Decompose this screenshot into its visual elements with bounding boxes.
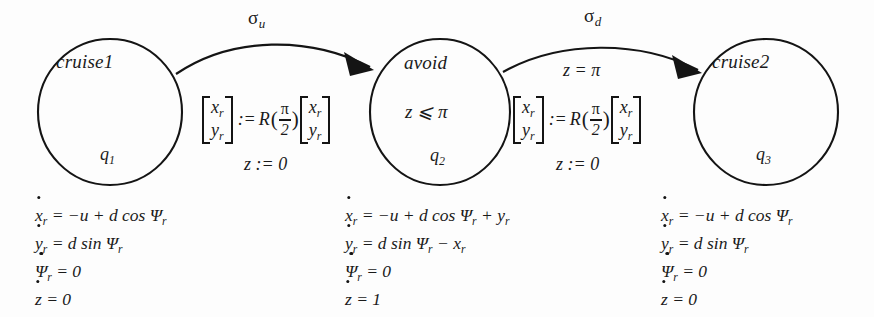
state-id-sub-q3: 3	[765, 153, 771, 167]
reset-angle-denominator-2: 2	[590, 122, 602, 138]
reset-rhs-top-sub-1: r	[317, 106, 322, 120]
variable-name: y	[35, 233, 43, 253]
reset-lhs-bot-var-2: y	[522, 120, 530, 140]
variable-name: y	[345, 233, 353, 253]
equation-rhs-subscript: r	[788, 215, 793, 227]
equation-rhs-tail-subscript: r	[461, 243, 466, 255]
variable-name: z	[661, 289, 668, 309]
reset-rhs-vector-2: xr yr	[611, 96, 642, 144]
transition-edge-avoid-to-cruise2[interactable]	[503, 48, 698, 72]
reset-assign-operator-2: :=	[549, 109, 567, 130]
reset-rhs-top-var-2: x	[620, 97, 628, 117]
reset-angle-fraction-2: π 2	[590, 101, 602, 138]
reset-rhs-top-sub-2: r	[628, 106, 633, 120]
reset-paren-open-1: (	[271, 107, 278, 132]
equation-rhs: = −u + d cos Ψ	[47, 205, 162, 225]
transition-reset-map-2: xr yr := R ( π 2 ) xr yr	[512, 96, 642, 144]
dynamics-equation: Ψr = 0	[661, 257, 793, 285]
reset-paren-open-2: (	[582, 107, 589, 132]
reset-rotation-function-2: R	[570, 109, 581, 130]
reset-lhs-bot-2: yr	[522, 120, 535, 143]
state-id-sub-q2: 2	[439, 154, 445, 168]
transition-event-label-sigma-d: σd	[584, 6, 601, 28]
variable-name: Ψ	[661, 261, 673, 281]
reset-angle-numerator-2: π	[590, 101, 602, 117]
state-id-label-q3: q3	[756, 145, 771, 167]
dotted-variable: z	[345, 285, 352, 312]
equation-rhs: = −u + d cos Ψ	[673, 205, 788, 225]
state-id-sub-q1: 1	[109, 153, 115, 167]
state-id-letter-q3: q	[756, 144, 765, 164]
reset-lhs-vector-2: xr yr	[513, 96, 544, 144]
equation-rhs: = 0	[362, 261, 391, 281]
reset-rhs-bot-2: yr	[620, 120, 633, 143]
state-label-cruise1: cruise1	[56, 52, 113, 71]
reset-rhs-bot-sub-1: r	[317, 129, 322, 143]
transition-guard-label-2: z = π	[563, 61, 600, 79]
equation-rhs: = 0	[42, 289, 71, 309]
equation-rhs: = −u + d cos Ψ	[357, 205, 472, 225]
reset-rotation-function-1: R	[259, 109, 270, 130]
transition-event-label-sigma-u: σu	[248, 8, 265, 30]
variable-name: Ψ	[35, 261, 47, 281]
reset-lhs-bot-1: yr	[211, 120, 224, 143]
event-subscript-u: u	[259, 16, 266, 31]
dynamics-equation: z = 1	[345, 285, 509, 312]
state-id-label-q1: q1	[100, 145, 115, 167]
event-subscript-d: d	[595, 14, 602, 29]
dynamics-equation: yr = d sin Ψr	[661, 229, 793, 257]
dynamics-equation: z = 0	[35, 285, 167, 312]
dynamics-equation: Ψr = 0	[345, 257, 509, 285]
dynamics-equation: yr = d sin Ψr	[35, 229, 167, 257]
equation-rhs: = d sin Ψ	[673, 233, 744, 253]
reset-lhs-top-sub-2: r	[530, 106, 535, 120]
reset-lhs-vector-1: xr yr	[202, 96, 233, 144]
state-label-cruise2: cruise2	[712, 52, 769, 71]
reset-rhs-vector-1: xr yr	[300, 96, 331, 144]
variable-name: z	[35, 289, 42, 309]
reset-rhs-bot-1: yr	[309, 120, 322, 143]
dynamics-block-avoid: xr = −u + d cos Ψr + yryr = d sin Ψr − x…	[345, 201, 509, 311]
transition-reset-map-1: xr yr := R ( π 2 ) xr yr	[201, 96, 331, 144]
variable-name: z	[345, 289, 352, 309]
dynamics-equation: Ψr = 0	[35, 257, 167, 285]
reset-angle-denominator-1: 2	[279, 122, 291, 138]
reset-rhs-top-1: xr	[309, 97, 322, 120]
reset-lhs-top-var-2: x	[522, 97, 530, 117]
reset-lhs-top-var-1: x	[211, 97, 219, 117]
state-invariant-avoid: z ⩽ π	[405, 102, 447, 121]
dynamics-equation: xr = −u + d cos Ψr	[661, 201, 793, 229]
variable-name: x	[661, 205, 669, 225]
dynamics-block-cruise2: xr = −u + d cos Ψryr = d sin ΨrΨr = 0z =…	[661, 201, 793, 311]
reset-paren-close-1: )	[292, 107, 299, 132]
reset-rhs-top-2: xr	[620, 97, 633, 120]
reset-angle-numerator-1: π	[279, 101, 291, 117]
variable-name: x	[35, 205, 43, 225]
dynamics-equation: xr = −u + d cos Ψr	[35, 201, 167, 229]
equation-rhs: = d sin Ψ	[357, 233, 428, 253]
dotted-variable: z	[661, 285, 668, 312]
reset-rhs-bot-var-1: y	[309, 120, 317, 140]
transition-edge-cruise1-to-avoid[interactable]	[176, 45, 370, 74]
reset-lhs-bot-var-1: y	[211, 120, 219, 140]
equation-rhs-tail-subscript: r	[505, 215, 510, 227]
state-id-letter-q1: q	[100, 144, 109, 164]
reset-lhs-bot-sub-2: r	[530, 129, 535, 143]
equation-rhs-tail: − x	[433, 233, 461, 253]
equation-rhs: = 0	[668, 289, 697, 309]
transition-reset-clock-1: z := 0	[244, 155, 287, 173]
reset-rhs-bot-sub-2: r	[628, 129, 633, 143]
reset-angle-fraction-1: π 2	[279, 101, 291, 138]
equation-rhs: = 0	[52, 261, 81, 281]
state-id-label-q2: q2	[430, 146, 445, 168]
reset-rhs-bot-var-2: y	[620, 120, 628, 140]
reset-rhs-top-var-1: x	[309, 97, 317, 117]
transition-arrowhead-avoid-to-cruise2	[672, 55, 702, 79]
hybrid-automaton-diagram: cruise1 q1 avoid z ⩽ π q2 cruise2 q3 σu …	[0, 0, 874, 317]
transition-arrowhead-cruise1-to-avoid	[344, 52, 374, 76]
reset-assign-operator-1: :=	[238, 109, 256, 130]
dynamics-equation: xr = −u + d cos Ψr + yr	[345, 201, 509, 229]
dotted-variable: z	[35, 285, 42, 312]
variable-name: Ψ	[345, 261, 357, 281]
equation-rhs-subscript: r	[162, 215, 167, 227]
